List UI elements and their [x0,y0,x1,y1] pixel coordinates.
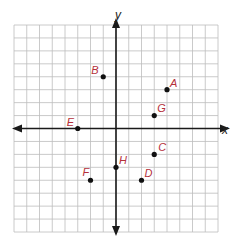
y-axis-label: y [114,8,122,22]
point-label: H [119,154,127,166]
point-label: E [67,116,75,128]
point-marker-icon [164,87,169,92]
x-axis-label: x [221,123,229,137]
point-label: B [91,64,98,76]
point-marker-icon [152,152,157,157]
point-label: D [145,167,153,179]
point-label: G [157,102,166,114]
point-marker-icon [75,126,80,131]
y-axis-arrow-down-icon [112,226,120,236]
point-marker-icon [88,178,93,183]
point-marker-icon [101,74,106,79]
data-points: ABCDEFGH [67,64,178,183]
point-marker-icon [139,178,144,183]
axes: x y [12,8,230,236]
point-label: C [158,141,166,153]
x-axis-arrow-left-icon [12,125,22,133]
point-marker-icon [113,165,118,170]
point-label: F [83,166,91,178]
point-label: A [169,77,177,89]
coordinate-plane: x y ABCDEFGH [0,0,242,242]
point-marker-icon [152,113,157,118]
